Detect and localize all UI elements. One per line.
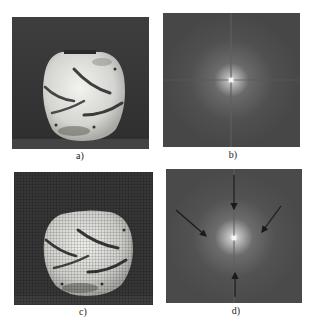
panel-c-caption: c) [68, 306, 98, 318]
panel-d-caption: d) [221, 305, 251, 317]
fourier-spectrum [163, 13, 300, 147]
panel-a-caption: a) [65, 150, 95, 162]
panel-d-image [166, 169, 302, 303]
panel-a-image [12, 17, 149, 149]
fourier-spectrum-annotated [166, 169, 302, 303]
panel-b-caption: b) [218, 149, 248, 161]
panel-c-image [14, 172, 153, 305]
panel-b-image [163, 13, 300, 147]
halftone-vase-photo [14, 172, 153, 305]
vase-photo [12, 17, 149, 149]
